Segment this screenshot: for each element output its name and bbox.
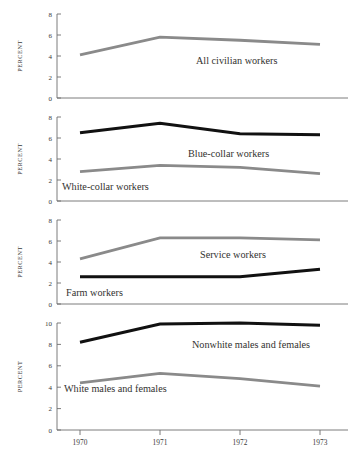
series-line-2-2 (80, 165, 320, 173)
x-tick-label-1972: 1972 (233, 438, 248, 447)
chart-panel-2: 02468PERCENTBlue-collar workersWhite-col… (0, 111, 354, 227)
x-axis-svg: 1970197119721973 (0, 424, 354, 454)
y-tick-label-4-8: 8 (49, 341, 53, 349)
series-label-2-2: White-collar workers (62, 181, 149, 192)
series-label-1-1: All civilian workers (196, 55, 278, 66)
y-tick-label-3-4: 4 (49, 259, 53, 267)
y-tick-label-1-4: 4 (49, 53, 53, 61)
y-tick-label-2-6: 6 (49, 135, 53, 143)
x-tick-label-1973: 1973 (313, 438, 328, 447)
panel-plot-area-1: 02468PERCENTAll civilian workers (0, 8, 354, 124)
y-tick-label-3-8: 8 (49, 217, 53, 225)
y-tick-label-3-2: 2 (49, 280, 53, 288)
y-tick-label-2-8: 8 (49, 114, 53, 122)
panel-plot-area-3: 02468PERCENTService workersFarm workers (0, 214, 354, 330)
y-axis-title-4: PERCENT (16, 361, 23, 393)
x-tick-label-1971: 1971 (153, 438, 168, 447)
x-tick-label-1970: 1970 (73, 438, 88, 447)
y-tick-label-2-4: 4 (49, 156, 53, 164)
y-tick-label-3-6: 6 (49, 238, 53, 246)
y-tick-label-3-0: 0 (49, 301, 53, 309)
y-tick-label-2-2: 2 (49, 177, 53, 185)
y-tick-label-4-6: 6 (49, 362, 53, 370)
y-axis-title-2: PERCENT (16, 143, 23, 175)
series-line-3-2 (80, 269, 320, 276)
series-label-3-2: Farm workers (66, 287, 123, 298)
y-tick-label-2-0: 0 (49, 198, 53, 206)
series-label-3-1: Service workers (200, 249, 266, 260)
y-axis-title-3: PERCENT (16, 246, 23, 278)
series-line-2-1 (80, 123, 320, 135)
y-tick-label-4-10: 10 (45, 320, 53, 328)
y-tick-label-1-6: 6 (49, 32, 53, 40)
series-line-1-1 (80, 37, 320, 55)
unemployment-rate-multi-panel-chart: 02468PERCENTAll civilian workers02468PER… (0, 0, 354, 454)
series-label-4-2: White males and females (64, 383, 167, 394)
chart-panel-3: 02468PERCENTService workersFarm workers (0, 214, 354, 330)
panel-plot-area-2: 02468PERCENTBlue-collar workersWhite-col… (0, 111, 354, 227)
series-label-4-1: Nonwhite males and females (192, 339, 310, 350)
y-tick-label-4-2: 2 (49, 405, 53, 413)
series-label-2-1: Blue-collar workers (188, 148, 269, 159)
y-tick-label-4-4: 4 (49, 384, 53, 392)
y-tick-label-1-2: 2 (49, 74, 53, 82)
chart-panel-1: 02468PERCENTAll civilian workers (0, 8, 354, 124)
x-axis-block: 1970197119721973 (0, 424, 354, 454)
y-tick-label-1-8: 8 (49, 11, 53, 19)
y-axis-title-1: PERCENT (16, 40, 23, 72)
y-tick-label-1-0: 0 (49, 95, 53, 103)
